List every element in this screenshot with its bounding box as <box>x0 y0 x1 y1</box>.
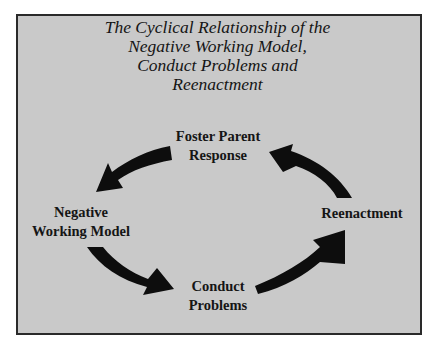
title-line-3: Conduct Problems and <box>0 56 435 75</box>
node-label-line: Working Model <box>32 222 130 241</box>
diagram-title: The Cyclical Relationship of the Negativ… <box>0 18 435 94</box>
node-reenactment: Reenactment <box>321 204 402 223</box>
node-negative-working-model: Negative Working Model <box>32 203 130 241</box>
node-label-line: Negative <box>32 203 130 222</box>
title-line-1: The Cyclical Relationship of the <box>0 18 435 37</box>
node-label-line: Foster Parent <box>176 127 260 146</box>
title-line-4: Reenactment <box>0 75 435 94</box>
node-label-line: Reenactment <box>321 204 402 223</box>
title-line-2: Negative Working Model, <box>0 37 435 56</box>
node-foster-parent-response: Foster Parent Response <box>176 127 260 165</box>
node-conduct-problems: Conduct Problems <box>189 277 248 315</box>
node-label-line: Conduct <box>189 277 248 296</box>
node-label-line: Response <box>176 146 260 165</box>
node-label-line: Problems <box>189 296 248 315</box>
